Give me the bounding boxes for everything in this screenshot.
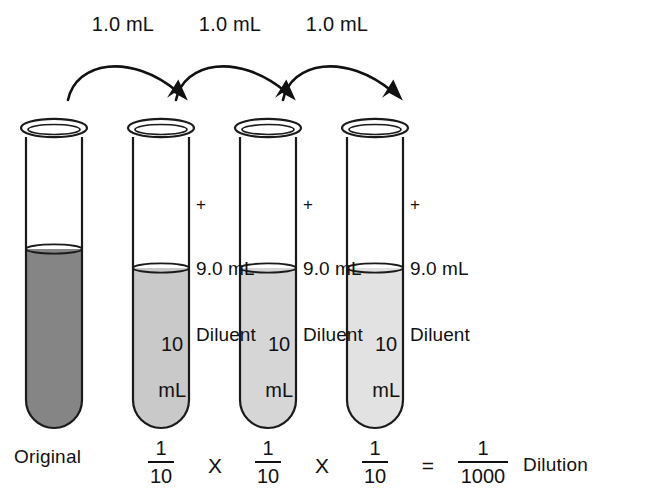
- tube-volume-label-1: 10 mL: [131, 310, 191, 425]
- result-fraction-bar: [458, 461, 508, 463]
- fraction-bar-1: [148, 461, 174, 463]
- fraction-numerator-2: 1: [237, 438, 299, 460]
- diluent-amount-1: 9.0 mL: [196, 258, 256, 280]
- tube-rim-inner-dilution-3: [349, 125, 401, 135]
- tube-volume-value-3: 10: [375, 333, 397, 355]
- fraction-numerator-3: 1: [344, 438, 406, 460]
- diluent-plus-sign-2: +: [303, 198, 363, 212]
- diluent-amount-3: 9.0 mL: [410, 258, 470, 280]
- diluent-note-3: + 9.0 mL Diluent: [410, 154, 470, 390]
- result-numerator: 1: [452, 438, 514, 460]
- tube-original: [21, 119, 87, 439]
- fraction-bar-3: [362, 461, 388, 463]
- transfer-volume-label-3: 1.0 mL: [277, 14, 397, 34]
- tube-volume-unit-3: mL: [372, 379, 400, 401]
- transfer-volume-label-2: 1.0 mL: [170, 14, 290, 34]
- fraction-denominator-3: 10: [344, 465, 406, 487]
- dilution-fraction-2: 1 10: [237, 438, 299, 487]
- tube-rim-inner-original: [28, 125, 80, 135]
- multiplication-operator-1: X: [200, 455, 230, 476]
- tube-rim-inner-dilution-2: [242, 125, 294, 135]
- transfer-arrow-3: [283, 66, 393, 100]
- diluent-amount-2: 9.0 mL: [303, 258, 363, 280]
- multiplication-operator-2: X: [307, 455, 337, 476]
- transfer-arrow-1: [68, 66, 178, 100]
- dilution-result-label: Dilution: [523, 455, 588, 474]
- dilution-fraction-1: 1 10: [130, 438, 192, 487]
- diluent-name-3: Diluent: [410, 324, 470, 346]
- tube-volume-unit-1: mL: [158, 379, 186, 401]
- tube-rim-inner-dilution-1: [135, 125, 187, 135]
- equals-operator: =: [413, 455, 443, 476]
- serial-dilution-diagram: 1.0 mL 1.0 mL 1.0 mL + 9.0 mL Diluent + …: [0, 0, 662, 500]
- transfer-volume-label-1: 1.0 mL: [63, 14, 183, 34]
- dilution-result-fraction: 1 1000: [452, 438, 514, 487]
- diluent-plus-sign-3: +: [410, 198, 470, 212]
- result-denominator: 1000: [452, 465, 514, 487]
- tube-volume-value-1: 10: [161, 333, 183, 355]
- tube-volume-unit-2: mL: [265, 379, 293, 401]
- transfer-arrow-2: [176, 66, 286, 100]
- fraction-denominator-1: 10: [130, 465, 192, 487]
- tube-volume-value-2: 10: [268, 333, 290, 355]
- tube-volume-label-2: 10 mL: [238, 310, 298, 425]
- tube-caption-original: Original: [14, 447, 81, 466]
- fraction-numerator-1: 1: [130, 438, 192, 460]
- dilution-fraction-3: 1 10: [344, 438, 406, 487]
- fraction-bar-2: [255, 461, 281, 463]
- tube-volume-label-3: 10 mL: [345, 310, 405, 425]
- diluent-plus-sign-1: +: [196, 198, 256, 212]
- fraction-denominator-2: 10: [237, 465, 299, 487]
